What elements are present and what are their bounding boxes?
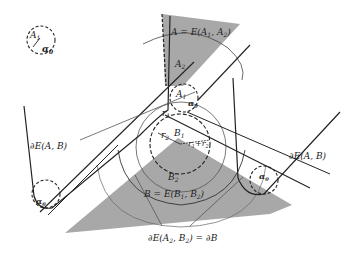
- svg-text:B1: B1: [173, 128, 184, 139]
- svg-text:A1: A1: [29, 30, 40, 41]
- diagram-canvas: A1 α0 A = E(A1, A2) A2 A1 α0 r1 r2 B1 r1…: [0, 0, 358, 254]
- svg-text:r2: r2: [161, 130, 169, 141]
- svg-text:∂E(A2, B2) = ∂B: ∂E(A2, B2) = ∂B: [148, 233, 218, 244]
- svg-text:α0: α0: [36, 196, 46, 207]
- svg-text:α0: α0: [259, 171, 269, 182]
- svg-text:α0: α0: [42, 44, 54, 55]
- svg-text:r1: r1: [162, 108, 170, 119]
- svg-text:α0: α0: [188, 98, 198, 109]
- region-B2: [65, 138, 292, 233]
- region-A2: [162, 14, 240, 86]
- svg-text:B = E(B1, B2): B = E(B1, B2): [143, 189, 205, 200]
- svg-text:∂E(A, B): ∂E(A, B): [289, 151, 327, 161]
- svg-text:A = E(A1, A2): A = E(A1, A2): [170, 27, 231, 38]
- svg-text:A1: A1: [175, 89, 186, 100]
- boundary-right: [233, 78, 340, 195]
- diagram-svg: A1 α0 A = E(A1, A2) A2 A1 α0 r1 r2 B1 r1…: [0, 0, 358, 254]
- svg-text:∂E(A, B): ∂E(A, B): [30, 141, 68, 151]
